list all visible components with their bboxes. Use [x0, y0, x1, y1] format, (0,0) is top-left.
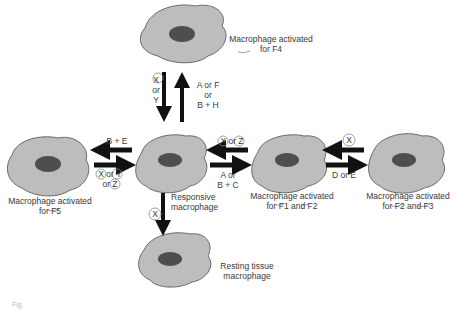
condition-to-resting: X — [148, 209, 162, 219]
cell-responsive — [136, 135, 207, 193]
cell-resting — [139, 233, 211, 287]
condition-to-f1f2: A or B + C — [212, 170, 244, 190]
nucleus-icon — [35, 156, 61, 172]
label-resting: Resting tissue macrophage — [212, 261, 282, 281]
label-f1f2: Macrophage activated for F1 and F2 — [242, 191, 342, 211]
nucleus-icon — [169, 26, 195, 42]
label-responsive: Responsive macrophage — [171, 192, 241, 212]
nucleus-icon — [158, 252, 182, 266]
cell-f2f3 — [369, 134, 445, 193]
cell-f5 — [7, 137, 88, 196]
nucleus-icon — [275, 153, 299, 167]
condition-from-f1f2: X or Z — [214, 136, 250, 146]
cell-f4 — [140, 5, 226, 63]
condition-from-f2f3: X — [340, 135, 358, 145]
label-f4: Macrophage activated for F4 — [216, 34, 326, 54]
figure-caption: Fig. — [12, 300, 52, 309]
condition-from-f5: X or Y or Z — [92, 169, 128, 189]
condition-to-f5: B + E — [100, 136, 134, 146]
condition-from-f4: X or Y — [146, 75, 166, 105]
label-f5: Macrophage activated for F5 — [2, 196, 98, 216]
nucleus-icon — [392, 153, 416, 167]
condition-to-f2f3: D or E — [326, 170, 362, 180]
label-f2f3: Macrophage activated for F2 and F3 — [358, 191, 458, 211]
nucleus-icon — [158, 153, 182, 167]
condition-to-f4: A or F or B + H — [188, 80, 228, 110]
cell-f1f2 — [252, 135, 327, 193]
